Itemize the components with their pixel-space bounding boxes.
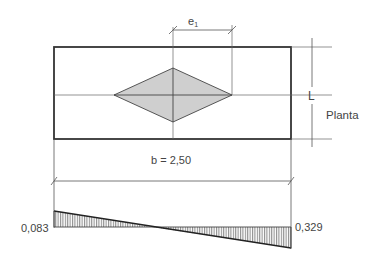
footing-diagram: e1 L Planta b = 2,50 0,083 0,329	[0, 0, 375, 271]
l-label: L	[308, 89, 315, 103]
e1-label: e1	[188, 15, 198, 28]
plan-label: Planta	[326, 109, 359, 121]
pressure-right-value: 0,329	[295, 221, 323, 233]
pressure-left-value: 0,083	[21, 222, 49, 234]
b-label: b = 2,50	[151, 154, 191, 166]
